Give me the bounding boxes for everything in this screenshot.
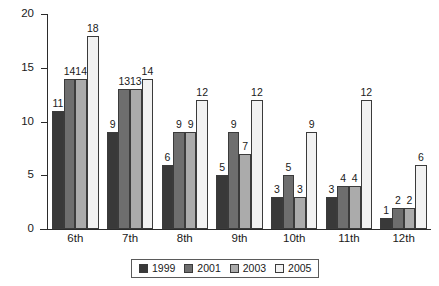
bar-value-label: 13 (130, 76, 142, 87)
bar: 4 (337, 186, 349, 229)
y-axis-tick (41, 14, 47, 15)
legend-swatch (139, 264, 148, 273)
bar: 5 (283, 175, 295, 229)
bar: 5 (216, 175, 228, 229)
bar-value-label: 3 (329, 184, 335, 195)
bar-value-label: 3 (274, 184, 280, 195)
bar: 12 (196, 100, 208, 229)
x-axis-label: 7th (103, 233, 158, 245)
bar-value-label: 5 (219, 162, 225, 173)
bar: 7 (239, 154, 251, 229)
bar-value-label: 4 (340, 173, 346, 184)
bar-value-label: 12 (196, 87, 208, 98)
bar-value-label: 7 (242, 141, 248, 152)
bar-group: 9131314 (103, 14, 158, 229)
bar-group: 34412 (322, 14, 377, 229)
legend-label: 2003 (243, 263, 266, 274)
bar-group: 1226 (376, 14, 431, 229)
y-axis-tick-label: 20 (0, 8, 34, 20)
bar: 4 (349, 186, 361, 229)
chart-legend: 1999200120032005 (131, 259, 319, 278)
bar: 2 (404, 208, 416, 230)
bar-value-label: 9 (176, 119, 182, 130)
bar: 9 (185, 132, 197, 229)
bar: 13 (130, 89, 142, 229)
legend-item: 1999 (139, 263, 175, 274)
legend-label: 2005 (288, 263, 311, 274)
y-axis-tick (41, 68, 47, 69)
legend-label: 1999 (152, 263, 175, 274)
bar-group: 3539 (267, 14, 322, 229)
bar-value-label: 12 (360, 87, 372, 98)
plot-area: 11141418913131469912597123539344121226 (48, 14, 431, 229)
bar-group: 69912 (157, 14, 212, 229)
bar: 1 (380, 218, 392, 229)
bar: 6 (415, 165, 427, 230)
bar: 3 (326, 197, 338, 229)
bar-value-label: 6 (418, 152, 424, 163)
bar-value-label: 18 (87, 23, 99, 34)
bar: 9 (306, 132, 318, 229)
y-axis-tick-label: 0 (0, 223, 34, 235)
legend-swatch (230, 264, 239, 273)
bar-value-label: 13 (118, 76, 130, 87)
bar: 9 (107, 132, 119, 229)
bar-value-label: 1 (383, 205, 389, 216)
bar: 9 (173, 132, 185, 229)
bar-value-label: 4 (352, 173, 358, 184)
x-axis-label: 12th (376, 233, 431, 245)
y-axis-tick (41, 122, 47, 123)
x-axis-label: 10th (267, 233, 322, 245)
bar-value-label: 14 (75, 66, 87, 77)
x-axis-label: 6th (48, 233, 103, 245)
bar-value-label: 3 (297, 184, 303, 195)
bar: 3 (294, 197, 306, 229)
y-axis-tick (41, 229, 47, 230)
bar-value-label: 2 (395, 195, 401, 206)
bar-value-label: 14 (142, 66, 154, 77)
bar: 14 (64, 79, 76, 230)
bar: 12 (361, 100, 373, 229)
y-axis-tick-label: 5 (0, 169, 34, 181)
bar-value-label: 9 (188, 119, 194, 130)
legend-item: 2005 (275, 263, 311, 274)
legend-item: 2001 (184, 263, 220, 274)
bar-value-label: 11 (53, 98, 64, 109)
bar-value-label: 9 (110, 119, 116, 130)
bar-value-label: 9 (231, 119, 237, 130)
bar-value-label: 2 (407, 195, 413, 206)
bar-group: 11141418 (48, 14, 103, 229)
bar-value-label: 9 (309, 119, 315, 130)
legend-label: 2001 (197, 263, 220, 274)
x-axis-line (40, 229, 431, 230)
y-axis-tick (41, 175, 47, 176)
bar-value-label: 14 (64, 66, 76, 77)
bar-value-label: 6 (164, 152, 170, 163)
y-axis-tick-label: 10 (0, 116, 34, 128)
bar: 18 (87, 36, 99, 230)
bar-value-label: 12 (251, 87, 263, 98)
bar: 14 (75, 79, 87, 230)
bar-chart: 05101520 1114141891313146991259712353934… (0, 0, 439, 286)
bar: 13 (118, 89, 130, 229)
bar: 3 (271, 197, 283, 229)
legend-item: 2003 (230, 263, 266, 274)
bar-group: 59712 (212, 14, 267, 229)
bar: 6 (162, 165, 174, 230)
x-axis-label: 8th (157, 233, 212, 245)
bar: 11 (52, 111, 64, 229)
x-axis-label: 9th (212, 233, 267, 245)
bar: 12 (251, 100, 263, 229)
bar: 14 (142, 79, 154, 230)
x-axis-label: 11th (322, 233, 377, 245)
y-axis-tick-label: 15 (0, 62, 34, 74)
bar: 9 (228, 132, 240, 229)
legend-swatch (184, 264, 193, 273)
bar-value-label: 5 (285, 162, 291, 173)
legend-swatch (275, 264, 284, 273)
bar: 2 (392, 208, 404, 230)
